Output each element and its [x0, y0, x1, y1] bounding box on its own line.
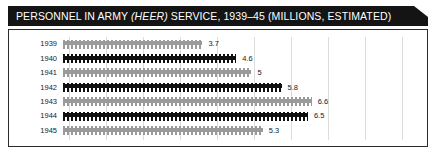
chart-row: 19446.5: [17, 109, 421, 123]
plot-area: 19393.719404.61941519425.819436.619446.5…: [17, 37, 421, 140]
chart-row: 19455.3: [17, 123, 421, 137]
year-label: 1943: [17, 98, 63, 106]
value-label: 3.7: [208, 40, 218, 48]
chart-title: PERSONNEL IN ARMY (HEER) SERVICE, 1939–4…: [16, 11, 391, 22]
chart-row: 19393.7: [17, 37, 421, 51]
chart-row: 19415: [17, 66, 421, 80]
value-label: 6.5: [314, 112, 324, 120]
value-label: 5.3: [269, 127, 279, 135]
bar-wrapper: 4.6: [63, 51, 421, 65]
chart-row: 19425.8: [17, 80, 421, 94]
year-label: 1940: [17, 55, 63, 63]
chart-panel: 19393.719404.61941519425.819436.619446.5…: [8, 29, 428, 147]
pictogram-bar: [63, 68, 251, 77]
chart-row: 19404.6: [17, 51, 421, 65]
bar-wrapper: 5.8: [63, 80, 421, 94]
year-label: 1945: [17, 127, 63, 135]
year-label: 1942: [17, 84, 63, 92]
pictogram-bar: [63, 97, 312, 106]
bar-wrapper: 5.3: [63, 123, 421, 137]
year-label: 1939: [17, 40, 63, 48]
pictogram-bar: [63, 40, 202, 49]
pictogram-bar: [63, 126, 263, 135]
figure-container: PERSONNEL IN ARMY (HEER) SERVICE, 1939–4…: [0, 0, 436, 158]
chart-header-bar: PERSONNEL IN ARMY (HEER) SERVICE, 1939–4…: [8, 6, 428, 26]
pictogram-bar: [63, 112, 308, 121]
value-label: 5.8: [288, 84, 298, 92]
value-label: 5: [257, 69, 261, 77]
chart-row: 19436.6: [17, 95, 421, 109]
pictogram-bar: [63, 54, 236, 63]
year-label: 1944: [17, 112, 63, 120]
value-label: 4.6: [242, 55, 252, 63]
chart-title-pre: PERSONNEL IN ARMY: [16, 10, 131, 22]
bar-wrapper: 3.7: [63, 37, 421, 51]
pictogram-bar: [63, 83, 282, 92]
year-label: 1941: [17, 69, 63, 77]
value-label: 6.6: [318, 98, 328, 106]
bar-wrapper: 6.5: [63, 109, 421, 123]
chart-title-post: SERVICE, 1939–45 (MILLIONS, ESTIMATED): [168, 10, 392, 22]
chart-title-emphasis: (HEER): [131, 10, 168, 22]
bar-wrapper: 6.6: [63, 95, 421, 109]
bar-wrapper: 5: [63, 66, 421, 80]
bar-rows: 19393.719404.61941519425.819436.619446.5…: [17, 37, 421, 140]
